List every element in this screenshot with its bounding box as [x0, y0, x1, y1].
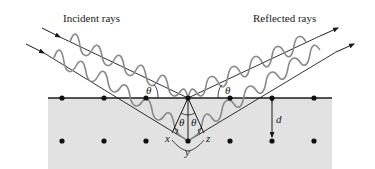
spacing-d-label: d [276, 113, 282, 125]
surface-angle-arc-left [154, 85, 158, 98]
point-z-label: z [205, 132, 211, 144]
theta-right-label: θ [225, 84, 231, 96]
crystal-region [48, 98, 332, 169]
point-y-label: y [184, 146, 190, 158]
theta-left-label: θ [146, 84, 152, 96]
incident-wave-1 [70, 34, 188, 98]
reflected-rays-label: Reflected rays [253, 12, 316, 24]
theta-inner-right-label: θ [191, 116, 197, 128]
reflected-ray-1 [188, 28, 338, 98]
incident-rays-label: Incident rays [63, 12, 120, 24]
bragg-diffraction-diagram: Incident rays Reflected rays θ θ θ θ x y… [0, 0, 375, 169]
theta-inner-left-label: θ [179, 116, 185, 128]
point-x-label: x [164, 132, 170, 144]
